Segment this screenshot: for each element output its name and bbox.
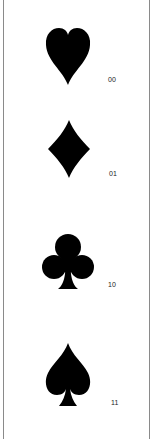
suit-code-diamond: 01 [109,170,117,177]
heart-icon [45,27,91,85]
suit-code-club: 10 [108,281,116,288]
club-icon [42,234,94,290]
suit-code-spade: 11 [111,399,119,406]
suit-code-heart: 00 [108,76,116,83]
spade-icon [45,343,91,407]
diamond-icon [48,120,90,178]
